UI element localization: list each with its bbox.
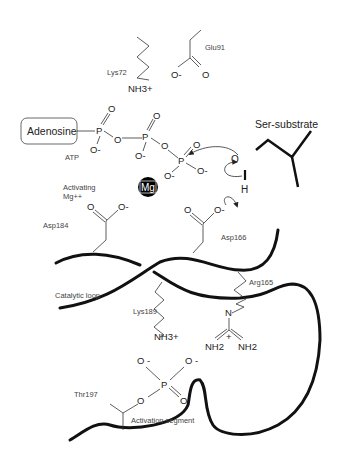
asp184-label: Asp184 <box>43 221 68 230</box>
lys72-label: Lys72 <box>107 68 127 77</box>
ser-substrate: Ser-substrate O H <box>190 118 318 206</box>
mg-label-1: Activating <box>63 183 96 192</box>
ser-substrate-label: Ser-substrate <box>255 118 318 130</box>
glu91-label: Glu91 <box>205 43 225 52</box>
atp: Adenosine P O O- O P O O- O P O O- O- AT… <box>21 103 208 181</box>
svg-text:O -: O - <box>137 355 150 366</box>
glu91-sidechain: Glu91 O- O <box>171 30 225 80</box>
protein-backbone: Catalytic loop Activation segment <box>55 230 320 440</box>
ser-h: H <box>241 184 248 195</box>
lys189-label: Lys189 <box>133 307 157 316</box>
atp-label: ATP <box>65 153 79 162</box>
svg-text:O-: O- <box>164 170 175 181</box>
svg-text:O: O <box>153 110 160 121</box>
arg165-nh2-right: NH2 <box>238 341 257 352</box>
svg-text:O: O <box>180 395 187 406</box>
lys72-sidechain: Lys72 NH3+ <box>107 37 153 94</box>
svg-text:O-: O- <box>118 201 129 212</box>
svg-text:O: O <box>87 201 94 212</box>
thr197-label: Thr197 <box>74 390 98 399</box>
asp166-sidechain: O O- Asp166 <box>184 204 246 253</box>
phosphate-p: P <box>161 379 167 390</box>
adenosine-label: Adenosine <box>27 125 77 137</box>
mg-symbol: Mg <box>141 182 155 193</box>
svg-text:O-: O- <box>90 144 101 155</box>
arg165-nh2-left: NH2 <box>205 341 224 352</box>
svg-text:O: O <box>108 103 115 114</box>
kinase-mechanism-diagram: Lys72 NH3+ Glu91 O- O Adenosine P O O- O… <box>0 0 340 454</box>
atp-p-gamma: P <box>178 155 184 166</box>
svg-text:O-: O- <box>135 150 146 161</box>
svg-text:O-: O- <box>214 204 225 215</box>
glu91-o-minus: O- <box>171 69 182 80</box>
svg-text:O: O <box>184 204 191 215</box>
catalytic-loop-label: Catalytic loop <box>55 291 100 300</box>
asp166-label: Asp166 <box>221 233 246 242</box>
atp-p-beta: P <box>142 131 148 142</box>
arg165-label: Arg165 <box>249 278 273 287</box>
arg165-sidechain: Arg165 N + NH2 NH2 <box>205 272 273 352</box>
lys189-nh3: NH3+ <box>154 331 179 342</box>
mg-ion: Mg Activating Mg++ <box>63 177 158 201</box>
asp184-sidechain: O O- Asp184 <box>43 201 129 252</box>
arg165-charge: + <box>226 331 232 342</box>
svg-text:O: O <box>193 139 200 150</box>
atp-p-alpha: P <box>96 125 102 136</box>
activation-segment-label: Activation segment <box>131 416 195 425</box>
svg-text:O: O <box>161 140 168 151</box>
mg-label-2: Mg++ <box>63 192 83 201</box>
lys189-sidechain: Lys189 NH3+ <box>133 282 179 342</box>
svg-text:O -: O - <box>185 355 198 366</box>
glu91-o: O <box>202 69 209 80</box>
strand-upper-left <box>56 254 140 265</box>
arg165-n: N <box>225 307 232 318</box>
svg-text:O: O <box>114 134 121 145</box>
svg-text:O-: O- <box>197 165 208 176</box>
lys72-nh3: NH3+ <box>128 83 153 94</box>
ser-o: O <box>231 154 239 165</box>
